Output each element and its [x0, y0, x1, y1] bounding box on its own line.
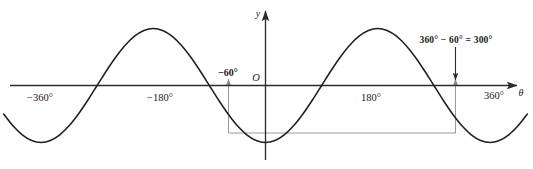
x-tick-label-minus360: −360°: [27, 92, 53, 103]
y-axis-label: y: [255, 8, 261, 19]
origin-label: O: [252, 72, 260, 83]
x-axis-label: θ: [519, 87, 524, 98]
figure-canvas: y θ O −360° −180° 180° 360° −60° 360° − …: [0, 0, 533, 169]
left-angle-callout-label: −60°: [218, 67, 238, 78]
x-tick-label-180: 180°: [361, 92, 381, 103]
labels-group: y θ O −360° −180° 180° 360° −60° 360° − …: [27, 8, 523, 103]
right-annotation-callout-label: 360° − 60° = 300°: [419, 35, 492, 45]
x-tick-label-minus180: −180°: [147, 92, 173, 103]
x-tick-label-360: 360°: [484, 90, 504, 101]
sine-graph-figure: y θ O −360° −180° 180° 360° −60° 360° − …: [0, 0, 533, 169]
construction-guides: [229, 79, 456, 133]
axes-group: [10, 11, 517, 160]
